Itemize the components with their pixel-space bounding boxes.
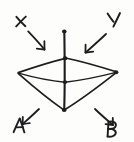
label-y-text: Y <box>106 15 115 30</box>
node-center-mid <box>63 80 67 84</box>
node-axis-top <box>62 30 67 34</box>
arrow-y-icon <box>85 34 106 53</box>
label-x-text: X <box>16 14 25 29</box>
sketch-canvas: X Y A B <box>0 0 134 142</box>
edge-top-left <box>18 58 65 72</box>
node-bottom-apex <box>62 108 67 112</box>
arrow-x-icon <box>28 31 44 49</box>
edge-mid-right <box>65 72 116 82</box>
node-right-vertex <box>114 70 119 74</box>
label-a-text: A <box>13 120 22 135</box>
arrow-b-icon <box>95 109 113 125</box>
diagram-svg: X Y A B <box>0 0 134 142</box>
edge-mid-left <box>18 73 64 82</box>
label-b-text: B <box>107 125 116 140</box>
diagram-geometry <box>18 31 116 110</box>
arrow-a-icon <box>23 109 39 124</box>
node-rhombus-top <box>63 56 68 60</box>
edge-vertical-axis <box>64 31 65 110</box>
edge-top-right <box>66 58 117 72</box>
diagram-nodes <box>62 30 119 113</box>
